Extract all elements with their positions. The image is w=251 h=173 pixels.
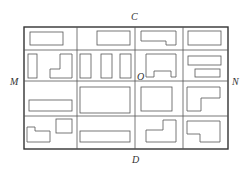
building bbox=[50, 54, 72, 78]
building bbox=[146, 54, 176, 77]
building bbox=[141, 31, 176, 45]
building bbox=[80, 131, 130, 142]
building bbox=[27, 127, 50, 142]
building bbox=[56, 119, 72, 133]
building bbox=[188, 56, 221, 65]
building bbox=[97, 31, 130, 45]
building bbox=[101, 54, 112, 78]
building bbox=[120, 54, 131, 78]
building bbox=[80, 87, 130, 113]
building bbox=[187, 121, 220, 142]
building bbox=[188, 31, 221, 45]
building bbox=[28, 54, 37, 78]
building bbox=[187, 87, 220, 111]
label-n: N bbox=[232, 77, 239, 87]
city-block-map bbox=[0, 0, 251, 173]
building bbox=[146, 120, 176, 142]
building bbox=[30, 32, 63, 45]
label-m: M bbox=[10, 77, 18, 87]
building bbox=[80, 54, 91, 78]
label-o: O bbox=[137, 72, 144, 82]
building bbox=[141, 87, 172, 111]
building bbox=[29, 100, 72, 111]
label-c: C bbox=[131, 12, 138, 22]
label-d: D bbox=[132, 155, 139, 165]
building bbox=[195, 69, 220, 77]
